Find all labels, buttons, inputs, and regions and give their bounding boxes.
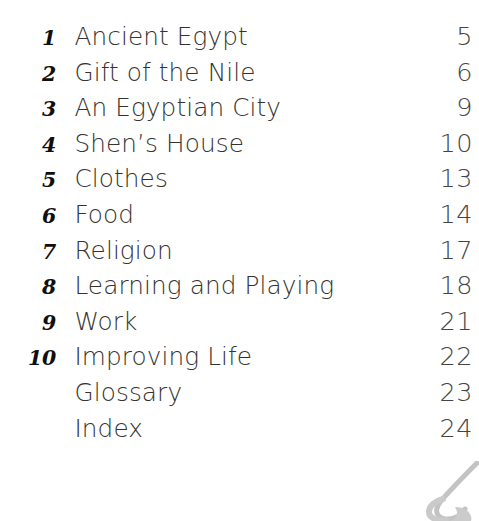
page-number: 13 <box>401 166 479 192</box>
chapter-number: 5 <box>0 170 56 191</box>
page-number: 24 <box>401 416 479 442</box>
chapter-number: 4 <box>0 135 56 156</box>
toc-entry[interactable]: 5Clothes13 <box>0 166 479 202</box>
chapter-number: 7 <box>0 242 56 263</box>
page-number: 9 <box>401 95 479 121</box>
chapter-title[interactable]: Learning and Playing <box>56 273 391 299</box>
chapter-title[interactable]: Shen’s House <box>56 131 391 157</box>
toc-entry[interactable]: 8Learning and Playing18 <box>0 273 479 309</box>
chapter-number: 3 <box>0 99 56 120</box>
chapter-title[interactable]: Religion <box>56 238 391 264</box>
page-number: 22 <box>401 344 479 370</box>
chapter-title[interactable]: Improving Life <box>56 344 391 370</box>
toc-entry[interactable]: Index24 <box>0 416 479 452</box>
toc-entry[interactable]: 7Religion17 <box>0 238 479 274</box>
page-number: 17 <box>401 238 479 264</box>
chapter-title[interactable]: Ancient Egypt <box>56 24 391 50</box>
page-number: 5 <box>401 24 479 50</box>
page-number: 18 <box>401 273 479 299</box>
page-number: 21 <box>401 309 479 335</box>
chapter-title[interactable]: Clothes <box>56 166 391 192</box>
chapter-title[interactable]: Food <box>56 202 391 228</box>
chapter-number: 2 <box>0 64 56 85</box>
toc-entry[interactable]: 4Shen’s House10 <box>0 131 479 167</box>
toc-entry[interactable]: 3An Egyptian City9 <box>0 95 479 131</box>
toc-entry[interactable]: 2Gift of the Nile6 <box>0 60 479 96</box>
chapter-number: 6 <box>0 206 56 227</box>
toc-page: 1Ancient Egypt52Gift of the Nile63An Egy… <box>0 0 479 521</box>
toc-entry[interactable]: 6Food14 <box>0 202 479 238</box>
page-number: 6 <box>401 60 479 86</box>
toc-entry[interactable]: 10Improving Life22 <box>0 344 479 380</box>
chapter-number: 1 <box>0 28 56 49</box>
table-of-contents-list: 1Ancient Egypt52Gift of the Nile63An Egy… <box>0 24 479 451</box>
chapter-number: 8 <box>0 277 56 298</box>
chapter-title[interactable]: Gift of the Nile <box>56 60 391 86</box>
chapter-title[interactable]: Glossary <box>56 380 391 406</box>
toc-entry[interactable]: 1Ancient Egypt5 <box>0 24 479 60</box>
chapter-title[interactable]: An Egyptian City <box>56 95 391 121</box>
chapter-title[interactable]: Work <box>56 309 391 335</box>
corner-swirl-icon <box>401 461 479 521</box>
toc-entry[interactable]: Glossary23 <box>0 380 479 416</box>
chapter-number: 10 <box>0 348 56 369</box>
page-number: 23 <box>401 380 479 406</box>
toc-entry[interactable]: 9Work21 <box>0 309 479 345</box>
page-number: 10 <box>401 131 479 157</box>
page-number: 14 <box>401 202 479 228</box>
chapter-title[interactable]: Index <box>56 416 391 442</box>
chapter-number: 9 <box>0 313 56 334</box>
